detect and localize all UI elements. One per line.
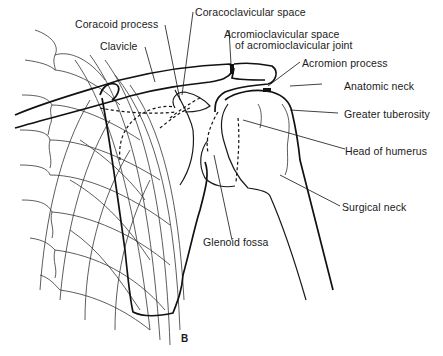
label-clavicle: Clavicle: [100, 40, 138, 52]
label-surgical-neck: Surgical neck: [342, 201, 406, 213]
label-head-of-humerus: Head of humerus: [345, 145, 427, 157]
label-glenoid-fossa: Glenoid fossa: [203, 236, 269, 248]
label-coracoclavicular-space: Coracoclavicular space: [195, 6, 306, 18]
label-greater-tuberosity: Greater tuberosity: [344, 108, 430, 120]
ac-joint-marker: [230, 64, 234, 74]
clavicle: [15, 64, 232, 128]
scapula: [100, 90, 207, 316]
shoulder-diagram: [0, 0, 443, 356]
ribs: [20, 30, 184, 345]
label-acromion-process: Acromion process: [302, 57, 388, 69]
label-anatomic-neck: Anatomic neck: [344, 80, 414, 92]
label-coracoid-process: Coracoid process: [75, 18, 158, 30]
acromion: [215, 63, 276, 112]
anatomic-neck-marker: [263, 88, 271, 92]
label-acromioclavicular-space-2: of acromioclavicular joint: [235, 39, 353, 51]
figure-panel-label: B: [181, 333, 188, 344]
